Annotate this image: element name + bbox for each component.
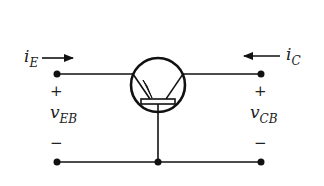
collector-lead bbox=[166, 74, 183, 99]
emitter-terminal-dot bbox=[54, 71, 61, 78]
collector-terminal-dot bbox=[258, 71, 265, 78]
circuit-diagram: iE iC + vEB − + vCB − bbox=[0, 0, 324, 186]
emitter-base-plus-sign: + bbox=[50, 82, 63, 100]
collector-base-plus-sign: + bbox=[254, 82, 267, 100]
collector-base-minus-sign: − bbox=[254, 134, 267, 152]
collector-current-label: iC bbox=[286, 44, 301, 68]
collector-base-voltage-label: vCB bbox=[250, 102, 278, 126]
emitter-ground-terminal-dot bbox=[54, 159, 61, 166]
collector-ground-terminal-dot bbox=[258, 159, 265, 166]
emitter-base-voltage-label: vEB bbox=[50, 102, 77, 126]
transistor-base-bar bbox=[141, 99, 175, 104]
transistor-symbol bbox=[131, 58, 185, 112]
emitter-base-minus-sign: − bbox=[50, 134, 63, 152]
emitter-current-label: iE bbox=[24, 46, 38, 70]
base-junction-dot bbox=[155, 159, 162, 166]
